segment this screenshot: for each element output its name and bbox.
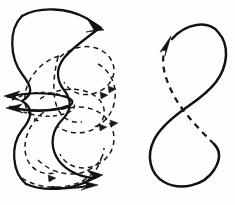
- left-figure-solid-curves: [8, 9, 101, 189]
- small-dashed-arrow-icon-5: [48, 175, 56, 182]
- solid-outer-left-wave: [12, 16, 30, 184]
- figure-eight-dashed-path: [163, 47, 214, 144]
- small-dashed-arrow-icon-4: [110, 120, 118, 127]
- small-dashed-arrow-icon-3: [99, 124, 107, 131]
- left-figure-arrowheads: [4, 20, 104, 190]
- right-figure: [150, 25, 226, 187]
- solid-upper-arc: [22, 9, 101, 28]
- figure-eight-arrow-icon: [160, 36, 171, 56]
- solid-center-spine: [53, 30, 97, 178]
- bottom-right-lower-arrow-icon: [81, 181, 98, 190]
- small-dashed-arrow-icon-1: [100, 92, 108, 99]
- line-art-svg: [0, 0, 235, 205]
- figure-eight-solid-path: [150, 25, 226, 187]
- illustration-canvas: [0, 0, 235, 205]
- left-figure: [4, 9, 118, 190]
- dashed-loop-lower-right: [60, 107, 114, 168]
- top-right-arrow-icon: [86, 20, 104, 32]
